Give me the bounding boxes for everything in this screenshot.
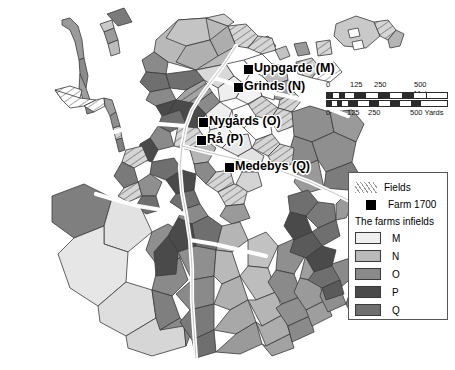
legend-key-p: P xyxy=(355,283,441,301)
legend-box: Fields Farm 1700 The farms infields M N … xyxy=(348,172,448,320)
scale-yards-tick-125: 125 xyxy=(347,108,360,117)
legend-key-o: O xyxy=(355,265,441,283)
farm-marker-grinds xyxy=(233,82,244,93)
farm-marker-uppgarde xyxy=(243,64,254,75)
scale-metres-tick-0: 0 xyxy=(326,80,330,89)
legend-label-o: O xyxy=(392,269,400,280)
map-figure: Uppgarde (M) Grinds (N) Nygårds (O) Rå (… xyxy=(0,0,455,370)
farm-square-icon xyxy=(366,200,376,210)
swatch-o xyxy=(355,268,381,280)
legend-infields-title: The farms infields xyxy=(355,216,441,227)
scale-yards-tick-0: 0 xyxy=(326,108,330,117)
farm-marker-nygards xyxy=(198,117,209,128)
legend-label-p: P xyxy=(392,287,399,298)
swatch-p xyxy=(355,286,381,298)
swatch-m xyxy=(355,232,381,244)
legend-row-fields: Fields xyxy=(355,179,441,196)
farm-marker-ra xyxy=(196,135,207,146)
legend-label-q: Q xyxy=(392,305,400,316)
swatch-n xyxy=(355,250,381,262)
legend-key-m: M xyxy=(355,229,441,247)
farm-label-medebys: Medebys (Q) xyxy=(235,160,310,173)
legend-label-n: N xyxy=(392,251,399,262)
farm-label-grinds: Grinds (N) xyxy=(244,80,305,93)
farm-label-nygards: Nygårds (O) xyxy=(209,115,281,128)
swatch-q xyxy=(355,304,381,316)
fields-hatch-swatch xyxy=(355,182,377,193)
legend-key-n: N xyxy=(355,247,441,265)
scale-bar: 0 125 250 500 Metres 0 125 250 500 Yards xyxy=(326,80,448,119)
legend-farm-label: Farm 1700 xyxy=(388,199,436,210)
scale-bar-metres xyxy=(326,92,448,99)
scale-metres-ticks: 0 125 250 500 Metres xyxy=(326,80,448,91)
scale-metres-tick-250: 250 xyxy=(374,80,387,89)
legend-fields-label: Fields xyxy=(384,182,411,193)
scale-metres-tick-125: 125 xyxy=(350,80,363,89)
farm-label-ra: Rå (P) xyxy=(207,133,243,146)
legend-key-q: Q xyxy=(355,301,441,319)
scale-yards-ticks: 0 125 250 500 Yards xyxy=(326,108,448,119)
legend-row-farm: Farm 1700 xyxy=(355,196,441,213)
legend-label-m: M xyxy=(392,233,400,244)
scale-yards-tick-250: 250 xyxy=(368,108,381,117)
farm-marker-medebys xyxy=(224,162,235,173)
scale-bar-yards xyxy=(326,100,448,107)
scale-yards-unit: 500 Yards xyxy=(410,108,444,117)
farm-label-uppgarde: Uppgarde (M) xyxy=(254,62,335,75)
